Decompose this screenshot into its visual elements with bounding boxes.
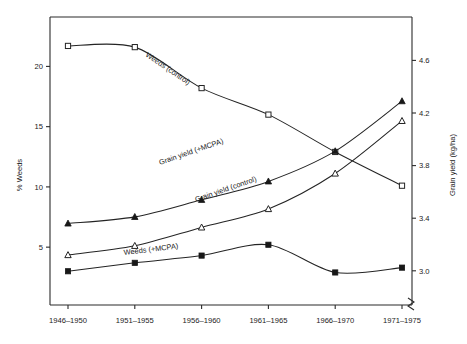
left-axis-title: % Weeds	[15, 159, 24, 192]
series-weeds-control	[65, 43, 404, 188]
series-line	[68, 101, 402, 223]
data-point-open-square	[399, 183, 404, 188]
left-tick-label: 10	[35, 183, 43, 192]
x-axis-ticks: 1946–19501951–19551956–19601961–19651966…	[49, 305, 421, 325]
x-tick-label: 1956–1960	[183, 316, 221, 325]
series-weeds-mcpa	[65, 242, 404, 275]
data-point-open-square	[65, 43, 70, 48]
x-tick-label: 1951–1955	[116, 316, 154, 325]
right-tick-label: 3.0	[419, 267, 430, 276]
data-point-open-triangle	[399, 117, 405, 123]
series-inline-label: Grain yield (control)	[194, 174, 258, 204]
right-tick-label: 3.8	[419, 161, 430, 170]
axis-break-marker	[408, 298, 414, 310]
right-tick-label: 4.6	[419, 56, 430, 65]
data-series-layer	[65, 43, 405, 275]
left-axis-ticks: 5101520	[35, 62, 50, 252]
series-inline-label: Weeds (control)	[144, 50, 192, 87]
x-tick-label: 1966–1970	[316, 316, 354, 325]
data-point-filled-square	[132, 260, 137, 265]
data-point-open-square	[266, 112, 271, 117]
data-point-open-square	[132, 45, 137, 50]
data-point-filled-square	[399, 265, 404, 270]
data-point-filled-square	[333, 270, 338, 275]
series-inline-label: Weeds (+MCPA)	[123, 241, 179, 257]
weeds-grain-yield-line-chart: 5101520 3.03.43.84.24.6 1946–19501951–19…	[0, 0, 467, 344]
right-axis-ticks: 3.03.43.84.24.6	[412, 56, 430, 275]
chart-figure: 5101520 3.03.43.84.24.6 1946–19501951–19…	[0, 0, 467, 344]
series-inline-label: Grain yield (+MCPA)	[158, 136, 225, 166]
data-point-filled-square	[199, 253, 204, 258]
x-tick-label: 1946–1950	[49, 316, 87, 325]
data-point-filled-square	[266, 242, 271, 247]
x-tick-label: 1961–1965	[249, 316, 287, 325]
right-tick-label: 3.4	[419, 214, 430, 223]
left-tick-label: 5	[39, 243, 43, 252]
right-axis-title: Grain yield (kg/ha)	[448, 134, 457, 197]
x-tick-label: 1971–1975	[383, 316, 421, 325]
left-tick-label: 15	[35, 122, 43, 131]
data-point-filled-triangle	[399, 98, 405, 104]
data-point-filled-square	[65, 269, 70, 274]
left-tick-label: 20	[35, 62, 43, 71]
data-point-open-triangle	[332, 170, 338, 176]
series-line	[68, 44, 402, 186]
right-tick-label: 4.2	[419, 109, 430, 118]
data-point-open-square	[199, 85, 204, 90]
series-annotations-layer: Weeds (control)Grain yield (+MCPA)Grain …	[123, 50, 257, 257]
